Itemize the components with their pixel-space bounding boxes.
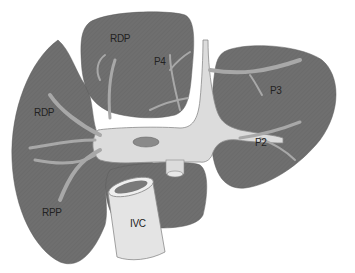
label-p3: P3 <box>270 85 282 96</box>
small-vessel-lumen <box>167 171 183 177</box>
label-ivc: IVC <box>130 218 146 229</box>
label-p2: P2 <box>255 137 267 148</box>
label-left-rdp: RDP <box>34 107 54 118</box>
portal-vein-lumen <box>133 137 159 147</box>
label-top-rdp: RDP <box>110 33 130 44</box>
liver-diagram-svg <box>0 0 355 273</box>
label-p4: P4 <box>154 56 166 67</box>
liver-diagram: RDP P4 RDP P3 P2 RPP IVC <box>0 0 355 273</box>
label-rpp: RPP <box>42 207 62 218</box>
